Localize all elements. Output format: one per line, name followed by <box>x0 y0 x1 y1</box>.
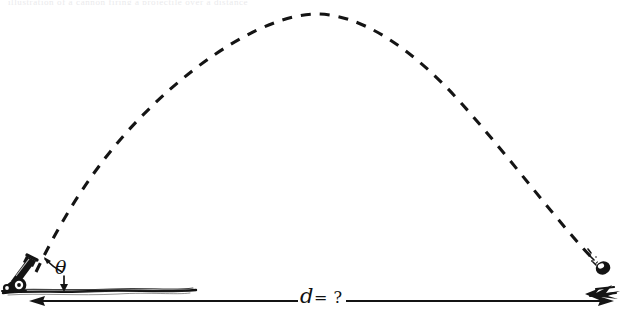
distance-equals-question: = ? <box>314 288 343 307</box>
angle-label-theta: θ <box>55 256 66 278</box>
trajectory-dashed-parabola <box>36 14 597 272</box>
figure-canvas: illustration of a cannon firing a projec… <box>0 0 642 323</box>
cannonball-icon <box>588 249 612 277</box>
distance-label: d= ? <box>298 284 346 308</box>
cannon-icon <box>3 255 37 292</box>
diagram-svg <box>0 0 642 323</box>
ground-line <box>2 288 196 295</box>
distance-variable: d <box>300 284 314 308</box>
